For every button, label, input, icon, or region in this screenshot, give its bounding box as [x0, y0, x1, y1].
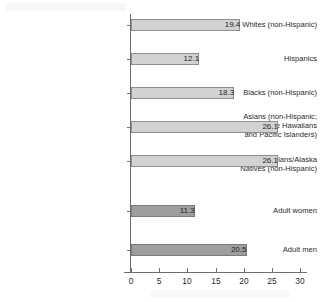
bar-value-hispanics: 12.1	[131, 53, 202, 65]
bar-value-blacks: 18.3	[131, 87, 237, 99]
y-tick-3	[127, 127, 130, 128]
x-tick-label-15: 15	[205, 276, 227, 287]
x-tick-label-0: 0	[120, 276, 142, 287]
x-tick-3	[216, 268, 217, 273]
bar-value-asians: 26.1	[131, 121, 281, 133]
bar-value-adult-men: 20.5	[131, 244, 250, 256]
y-tick-0	[127, 25, 130, 26]
x-tick-2	[187, 268, 188, 273]
scan-artifact	[150, 290, 290, 297]
x-tick-1	[159, 268, 160, 273]
y-tick-2	[127, 93, 130, 94]
bar-value-whites: 19.4	[131, 19, 243, 31]
x-tick-label-25: 25	[261, 276, 283, 287]
x-tick-label-30: 30	[289, 276, 311, 287]
y-tick-4	[127, 161, 130, 162]
bar-value-american-indians: 26.1	[131, 155, 281, 167]
x-tick-4	[244, 268, 245, 273]
x-tick-0	[131, 268, 132, 273]
scan-artifact	[6, 3, 126, 11]
x-tick-label-5: 5	[148, 276, 170, 287]
x-tick-label-10: 10	[176, 276, 198, 287]
x-tick-label-20: 20	[233, 276, 255, 287]
plot-area: 19.4 12.1 18.3 26.1 26.1 11.3 20.5	[131, 15, 300, 272]
x-tick-6	[300, 268, 301, 273]
y-tick-5	[127, 211, 130, 212]
y-tick-6	[127, 250, 130, 251]
bar-chart: Whites (non-Hispanic) Hispanics Blacks (…	[0, 0, 321, 302]
bar-value-adult-women: 11.3	[131, 205, 198, 217]
y-tick-1	[127, 59, 130, 60]
x-tick-5	[272, 268, 273, 273]
